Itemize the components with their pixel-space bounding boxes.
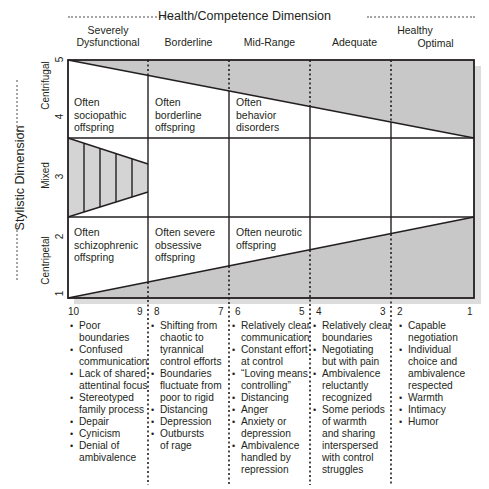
list-item: Constant effortat control bbox=[232, 344, 312, 368]
list-item: Distancing bbox=[151, 404, 231, 416]
list-severely-dysfunctional: Poor boundariesConfusedcommunicationLack… bbox=[70, 320, 150, 464]
list-item: Warmth bbox=[399, 392, 479, 404]
list-item: Depression bbox=[151, 416, 231, 428]
list-item: Lack of sharedattentinal focus bbox=[70, 368, 150, 392]
list-item: Boundariesfluctuate frompoor to rigid bbox=[151, 368, 231, 404]
list-item: “Loving meanscontrolling” bbox=[232, 368, 312, 392]
scale-3: 3 bbox=[380, 306, 386, 317]
list-item: Outburstsof rage bbox=[151, 428, 231, 452]
list-item: Relatively clearboundaries bbox=[313, 320, 393, 344]
cell-obsessive: Often severeobsessiveoffspring bbox=[155, 226, 215, 264]
list-item: Relatively clearcommunication bbox=[232, 320, 312, 344]
scale-1: 1 bbox=[467, 306, 473, 317]
scale-8: 8 bbox=[154, 306, 160, 317]
cell-sociopathic: Oftensociopathicoffspring bbox=[74, 96, 127, 134]
list-item: Negotiatingbut with pain bbox=[313, 344, 393, 368]
list-item: Capablenegotiation bbox=[399, 320, 479, 344]
list-item: Stereotypedfamily process bbox=[70, 392, 150, 416]
scale-9: 9 bbox=[137, 306, 143, 317]
list-item: Depair bbox=[70, 416, 150, 428]
cell-neurotic: Often neuroticoffspring bbox=[236, 226, 302, 251]
scale-7: 7 bbox=[218, 306, 224, 317]
list-optimal: CapablenegotiationIndividualchoice andam… bbox=[399, 320, 479, 428]
list-adequate: Relatively clearboundariesNegotiatingbut… bbox=[313, 320, 393, 476]
list-item: Some periodsof warmthand sharinginterspe… bbox=[313, 404, 393, 476]
list-item: Confusedcommunication bbox=[70, 344, 150, 368]
list-item: Anger bbox=[232, 404, 312, 416]
list-item: Humor bbox=[399, 416, 479, 428]
scale-6: 6 bbox=[235, 306, 241, 317]
list-item: Ambivalencereluctantlyrecognized bbox=[313, 368, 393, 404]
scale-4: 4 bbox=[316, 306, 322, 317]
list-item: Anxiety ordepression bbox=[232, 416, 312, 440]
scale-5: 5 bbox=[299, 306, 305, 317]
cell-borderline: Oftenborderlineoffspring bbox=[155, 96, 202, 134]
cell-schizophrenic: Oftenschizophrenicoffspring bbox=[74, 226, 138, 264]
list-item: Intimacy bbox=[399, 404, 479, 416]
scale-2: 2 bbox=[397, 306, 403, 317]
list-borderline: Shifting fromchaotic totyrannicalcontrol… bbox=[151, 320, 231, 452]
list-mid-range: Relatively clearcommunicationConstant ef… bbox=[232, 320, 312, 476]
list-item: Poor boundaries bbox=[70, 320, 150, 344]
list-item: Ambivalencehandled byrepression bbox=[232, 440, 312, 476]
list-item: Distancing bbox=[232, 392, 312, 404]
list-item: Denial ofambivalence bbox=[70, 440, 150, 464]
cell-behavior-disorders: Oftenbehaviordisorders bbox=[236, 96, 279, 134]
list-item: Individualchoice andambivalencerespected bbox=[399, 344, 479, 392]
list-item: Cynicism bbox=[70, 428, 150, 440]
scale-10: 10 bbox=[68, 306, 79, 317]
list-item: Shifting fromchaotic totyrannicalcontrol… bbox=[151, 320, 231, 368]
